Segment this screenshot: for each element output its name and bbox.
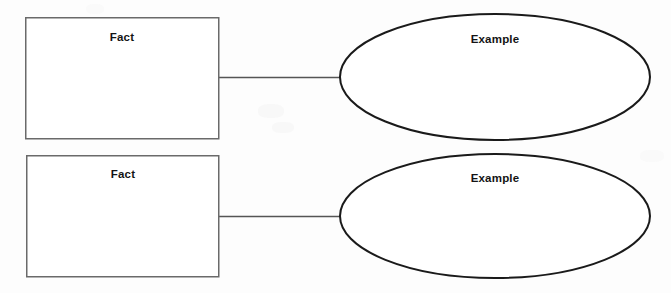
organizer-diagram — [0, 0, 671, 293]
organizer-row — [26, 14, 650, 140]
fact-box[interactable] — [27, 156, 219, 277]
fact-box[interactable] — [26, 18, 219, 139]
worksheet-canvas: Fact Example Fact Example — [0, 0, 671, 293]
example-ellipse[interactable] — [340, 14, 650, 140]
example-ellipse[interactable] — [340, 154, 650, 278]
organizer-row — [27, 154, 650, 278]
